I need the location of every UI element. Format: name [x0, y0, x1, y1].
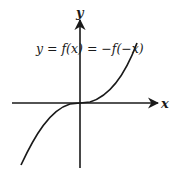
- function-curve: [21, 43, 137, 165]
- x-axis-label: x: [160, 96, 169, 111]
- y-axis-label: y: [75, 5, 85, 20]
- function-equation: y = f(x) = −f(−x): [35, 41, 144, 56]
- odd-function-graph: y x y = f(x) = −f(−x): [0, 0, 177, 175]
